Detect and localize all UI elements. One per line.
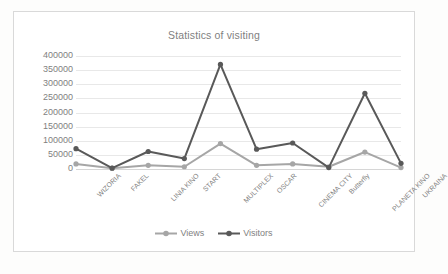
legend-marker-icon bbox=[218, 229, 240, 238]
data-point-marker bbox=[182, 156, 187, 161]
y-axis-tick-label: 100000 bbox=[13, 135, 73, 145]
x-axis-label-start: START bbox=[202, 172, 223, 193]
legend-label: Visitors bbox=[243, 228, 272, 238]
y-axis-tick-label: 200000 bbox=[13, 107, 73, 117]
plot-area: 4000003500003000002500002000001500001000… bbox=[76, 56, 401, 169]
data-point-marker bbox=[218, 141, 223, 146]
legend-marker-icon bbox=[155, 229, 177, 238]
data-point-marker bbox=[254, 163, 259, 168]
y-axis-tick-label: 0 bbox=[13, 163, 73, 173]
series-line-views bbox=[76, 144, 401, 169]
series-lines bbox=[76, 56, 401, 169]
data-point-marker bbox=[110, 166, 115, 171]
chart-legend: ViewsVisitors bbox=[14, 228, 414, 238]
data-point-marker bbox=[326, 165, 331, 170]
data-point-marker bbox=[362, 91, 367, 96]
x-axis-label-multiplex: MULTIPLEX bbox=[243, 172, 275, 204]
series-line-visitors bbox=[76, 64, 401, 168]
legend-item-views[interactable]: Views bbox=[155, 228, 204, 238]
chart-title: Statistics of visiting bbox=[14, 29, 414, 41]
data-point-marker bbox=[146, 149, 151, 154]
data-point-marker bbox=[73, 146, 78, 151]
y-axis-tick-label: 150000 bbox=[13, 121, 73, 131]
x-axis-label-oscar: OSCAR bbox=[275, 172, 298, 195]
data-point-marker bbox=[398, 161, 403, 166]
y-axis-tick-label: 250000 bbox=[13, 92, 73, 102]
data-point-marker bbox=[182, 164, 187, 169]
data-point-marker bbox=[73, 161, 78, 166]
data-point-marker bbox=[218, 62, 223, 67]
y-axis-tick-label: 50000 bbox=[13, 149, 73, 159]
x-axis-label-linia-kino: LINIA KINO bbox=[170, 172, 201, 203]
x-axis-label-fakel: FAKEL bbox=[129, 172, 149, 192]
x-axis-label-wizoria: WIZORIA bbox=[96, 172, 122, 198]
legend-label: Views bbox=[180, 228, 204, 238]
chart-frame: Statistics of visiting 40000035000030000… bbox=[13, 11, 415, 252]
data-point-marker bbox=[290, 140, 295, 145]
data-point-marker bbox=[254, 147, 259, 152]
x-axis-category-labels: WIZORIAFAKELLINIA KINOSTARTMULTIPLEXOSCA… bbox=[76, 172, 401, 227]
legend-item-visitors[interactable]: Visitors bbox=[218, 228, 272, 238]
y-axis-tick-label: 400000 bbox=[13, 50, 73, 60]
data-point-marker bbox=[362, 149, 367, 154]
y-axis-tick-label: 350000 bbox=[13, 64, 73, 74]
y-axis-tick-label: 300000 bbox=[13, 78, 73, 88]
data-point-marker bbox=[146, 163, 151, 168]
data-point-marker bbox=[290, 161, 295, 166]
axis-line-zero bbox=[76, 169, 401, 170]
